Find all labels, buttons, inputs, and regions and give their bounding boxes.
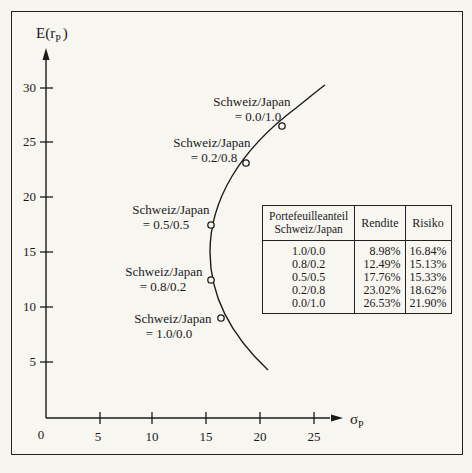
cell-rendite: 8.98%: [355, 241, 405, 259]
cell-anteil: 0.0/1.0: [263, 297, 355, 314]
y-tick-label: 5: [30, 354, 37, 369]
point-label-0.8-0.2-line2: = 0.8/0.2: [140, 279, 187, 294]
x-axis-arrow-icon: [331, 415, 343, 422]
point-label-0.0-1.0-line2: = 0.0/1.0: [235, 109, 282, 124]
y-tick-labels: 30 25 20 15 10 5: [23, 80, 36, 369]
x-tick-labels: 0 5 10 15 20 25: [38, 427, 321, 444]
y-tick-label: 15: [23, 244, 36, 259]
header-risiko: Risiko: [405, 206, 451, 241]
y-tick-label: 30: [23, 80, 36, 95]
y-tick-label: 25: [23, 134, 36, 149]
point-label-0.8-0.2-line1: Schweiz/Japan: [125, 264, 203, 279]
table-header-row: Portefeuilleanteil Schweiz/Japan Rendite…: [263, 206, 452, 241]
point-label-0.0-1.0-line1: Schweiz/Japan: [213, 94, 291, 109]
header-anteil-line2: Schweiz/Japan: [274, 223, 342, 235]
origin-label: 0: [38, 427, 45, 442]
cell-anteil: 1.0/0.0: [263, 241, 355, 259]
table-row: 0.0/1.0 26.53% 21.90%: [263, 297, 452, 314]
point-label-0.5-0.5-line2: = 0.5/0.5: [143, 217, 190, 232]
cell-rendite: 26.53%: [355, 297, 405, 314]
point-1.0-0.0: [218, 315, 224, 321]
x-axis-title: σP: [350, 411, 364, 430]
point-label-0.5-0.5-line1: Schweiz/Japan: [132, 202, 210, 217]
table-row: 1.0/0.0 8.98% 16.84%: [263, 241, 452, 259]
y-tick-label: 10: [23, 299, 36, 314]
point-0.8-0.2: [208, 277, 214, 283]
header-rendite: Rendite: [355, 206, 405, 241]
cell-risiko: 21.90%: [405, 297, 451, 314]
x-tick-label: 15: [200, 429, 213, 444]
point-label-1.0-0.0-line2: = 1.0/0.0: [146, 326, 193, 341]
point-label-0.2-0.8-line2: = 0.2/0.8: [191, 150, 238, 165]
point-label-0.2-0.8-line1: Schweiz/Japan: [173, 135, 251, 150]
x-tick-label: 25: [308, 429, 321, 444]
point-0.2-0.8: [243, 160, 249, 166]
y-axis-title: E(rP): [36, 25, 68, 44]
cell-risiko: 16.84%: [405, 241, 451, 259]
point-0.5-0.5: [208, 222, 214, 228]
x-tick-label: 5: [95, 429, 102, 444]
point-label-1.0-0.0-line1: Schweiz/Japan: [134, 311, 212, 326]
x-tick-label: 10: [146, 429, 159, 444]
portfolio-table: Portefeuilleanteil Schweiz/Japan Rendite…: [262, 205, 452, 314]
header-anteil-line1: Portefeuilleanteil: [269, 210, 348, 222]
y-tick-label: 20: [23, 189, 36, 204]
x-tick-label: 20: [254, 429, 267, 444]
y-axis-arrow-icon: [43, 48, 50, 60]
header-anteil: Portefeuilleanteil Schweiz/Japan: [263, 206, 355, 241]
